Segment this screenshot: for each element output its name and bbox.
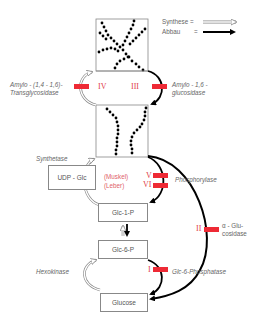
block-v-icon: [153, 173, 168, 178]
block-vi-icon: [153, 183, 168, 188]
alpha-glucosidase-label: α - Glu- cosidase: [222, 222, 247, 237]
defect-type-ii: II: [196, 225, 201, 233]
block-ii-icon: [204, 227, 219, 232]
glc1p-node: Glc-1-P: [98, 203, 148, 222]
legend-degradation-eq: =: [194, 28, 198, 36]
leber-label: (Leber): [104, 182, 124, 190]
block-i-icon: [153, 267, 168, 272]
defect-type-iv: IV: [98, 83, 106, 91]
transglycosidase-label: Amylo - (1,4 - 1,6)- Transglycosidase: [10, 81, 62, 96]
defect-type-iii: III: [131, 83, 139, 91]
defect-type-i: I: [148, 266, 151, 274]
glycogen-chain-box: [96, 105, 148, 157]
legend-degradation-label: Abbau: [162, 28, 180, 36]
muskel-label: (Muskel): [104, 173, 128, 181]
udp-glc-node: UDP - Glc: [48, 165, 96, 190]
hexokinase-label: Hexokinase: [36, 268, 69, 276]
glucose-node: Glucose: [100, 293, 148, 312]
legend-synthesis-label: Synthese =: [162, 18, 194, 26]
synthetase-label: Synthetase: [36, 155, 68, 163]
defect-type-v: V: [146, 172, 152, 180]
block-iv-icon: [74, 84, 89, 89]
glc6phosphatase-label: Glc-6-Phosphatase: [172, 268, 226, 276]
defect-type-vi: VI: [143, 181, 151, 189]
glucosidase16-label: Amylo - 1,6 - glucosidase: [172, 81, 208, 96]
glc6p-node: Glc-6-P: [98, 240, 148, 259]
phosphorylase-label: Phosphorylase: [175, 176, 217, 184]
block-iii-icon: [152, 84, 167, 89]
hexokinase-arrow: [84, 260, 100, 290]
